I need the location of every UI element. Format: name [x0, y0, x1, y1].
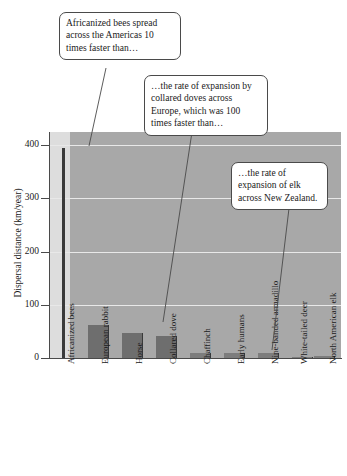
y-tick-100-mark — [41, 305, 49, 306]
gridline-200 — [49, 252, 341, 253]
y-tick-300-label: 300 — [25, 193, 39, 203]
x-label-africanized-bees: Africanized bees — [67, 303, 76, 364]
gridline-100 — [49, 305, 341, 306]
y-tick-100-label: 100 — [25, 300, 39, 310]
x-label-collared-dove: Collared dove — [169, 313, 178, 364]
y-axis-title: Dispersal distance (km/year) — [13, 158, 23, 328]
bar-africanized-bees — [62, 148, 65, 358]
gridline-400 — [49, 145, 341, 146]
y-tick-400-mark — [41, 145, 49, 146]
y-tick-200-label: 200 — [25, 247, 39, 257]
y-tick-0-label: 0 — [34, 353, 39, 363]
x-label-chaffinch: Chaffinch — [203, 328, 212, 364]
y-tick-300-mark — [41, 198, 49, 199]
x-label-north-american-elk: North American elk — [329, 293, 338, 364]
callout-elk: …the rate of expansion of elk across New… — [231, 162, 328, 210]
x-label-european-rabbit: European rabbit — [101, 306, 110, 364]
y-axis-line — [49, 132, 50, 359]
callout-africanized-bees: Africanized bees spread across the Ameri… — [59, 12, 181, 60]
y-tick-0-mark — [41, 358, 49, 359]
x-label-white-tailed-deer: White-tailed deer — [300, 301, 309, 364]
dispersal-distance-bar-chart: Dispersal distance (km/year) 400 300 200… — [0, 0, 347, 476]
y-tick-400-label: 400 — [25, 140, 39, 150]
x-label-early-humans: Early humans — [237, 314, 246, 364]
x-label-horse: Horse — [135, 343, 144, 365]
x-label-nine-banded-armadillo: Nine-banded armadillo — [271, 281, 280, 364]
callout-collared-doves: …the rate of expansion by collared doves… — [144, 75, 268, 136]
y-tick-200-mark — [41, 252, 49, 253]
